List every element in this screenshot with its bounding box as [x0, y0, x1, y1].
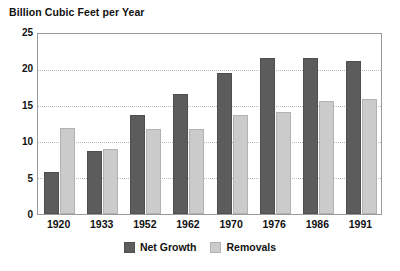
bar-removals-1970	[233, 115, 248, 214]
bar-removals-1933	[103, 149, 118, 214]
x-tick-label-1952: 1952	[133, 218, 156, 230]
y-tick-label-10: 10	[5, 137, 33, 147]
plot-area	[37, 33, 382, 215]
bar-group-1952	[130, 34, 161, 214]
bar-group-1976	[260, 34, 291, 214]
x-axis-labels: 19201933195219621970197619861991	[37, 218, 382, 234]
bar-removals-1962	[189, 129, 204, 214]
y-axis-labels: 0510152025	[0, 33, 33, 215]
x-tick-label-1920: 1920	[47, 218, 70, 230]
y-tick-label-0: 0	[5, 210, 33, 220]
x-tick-label-1970: 1970	[219, 218, 242, 230]
x-tick-label-1991: 1991	[349, 218, 372, 230]
x-tick-label-1933: 1933	[90, 218, 113, 230]
bar-removals-1986	[319, 101, 334, 214]
bar-group-1991	[346, 34, 377, 214]
bar-group-1920	[44, 34, 75, 214]
bar-net-growth-1991	[346, 61, 361, 214]
y-tick-label-15: 15	[5, 101, 33, 111]
chart-title: Billion Cubic Feet per Year	[9, 6, 145, 18]
bar-group-1986	[303, 34, 334, 214]
legend-label: Removals	[226, 241, 276, 253]
legend-item-removals: Removals	[210, 241, 276, 253]
bar-group-1970	[217, 34, 248, 214]
bar-chart: Billion Cubic Feet per Year 0510152025 1…	[0, 0, 400, 271]
y-tick-label-20: 20	[5, 64, 33, 74]
legend-item-net-growth: Net Growth	[124, 241, 197, 253]
bar-net-growth-1920	[44, 172, 59, 214]
chart-legend: Net GrowthRemovals	[0, 241, 400, 253]
bar-removals-1976	[276, 112, 291, 214]
bars-layer	[38, 34, 381, 214]
bar-group-1933	[87, 34, 118, 214]
x-tick-label-1976: 1976	[263, 218, 286, 230]
bar-net-growth-1952	[130, 115, 145, 214]
bar-net-growth-1970	[217, 73, 232, 214]
x-tick-label-1986: 1986	[306, 218, 329, 230]
bar-net-growth-1976	[260, 58, 275, 214]
legend-swatch-icon	[124, 242, 135, 253]
y-tick-label-25: 25	[5, 28, 33, 38]
bar-net-growth-1962	[173, 94, 188, 214]
y-tick-label-5: 5	[5, 174, 33, 184]
bar-removals-1920	[60, 128, 75, 214]
bar-removals-1991	[362, 99, 377, 214]
bar-net-growth-1933	[87, 151, 102, 214]
legend-label: Net Growth	[140, 241, 197, 253]
legend-swatch-icon	[210, 242, 221, 253]
bar-removals-1952	[146, 129, 161, 214]
x-tick-label-1962: 1962	[176, 218, 199, 230]
bar-net-growth-1986	[303, 58, 318, 214]
bar-group-1962	[173, 34, 204, 214]
